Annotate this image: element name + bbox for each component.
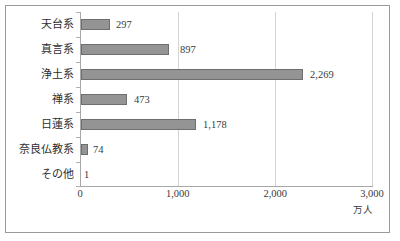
category-label: 真言系 [12, 37, 74, 62]
category-label: 奈良仏教系 [12, 137, 74, 162]
category-label: 天台系 [12, 12, 74, 37]
gridline-2000 [275, 12, 276, 187]
bar-nichiren[interactable] [81, 119, 196, 130]
y-axis-tick [76, 37, 80, 38]
category-label: 浄土系 [12, 62, 74, 87]
category-label: 日蓮系 [12, 112, 74, 137]
gridline-1000 [178, 12, 179, 187]
gridline-3000 [372, 12, 373, 187]
x-axis-line [80, 186, 373, 187]
chart-frame: 天台系 真言系 浄土系 禅系 日蓮系 奈良仏教系 その他 297 897 [5, 5, 390, 233]
plot-area: 297 897 2,269 473 1,178 74 1 [80, 12, 373, 187]
x-tick-label: 1,000 [166, 188, 190, 199]
bar-value-label: 1 [84, 166, 89, 183]
category-label: その他 [12, 162, 74, 187]
x-tick-label: 3,000 [360, 188, 384, 199]
bar-jodo[interactable] [81, 69, 303, 80]
bar-value-label: 74 [93, 141, 104, 158]
category-label: 禅系 [12, 87, 74, 112]
bar-shingon[interactable] [81, 44, 169, 55]
bar-value-label: 897 [180, 41, 196, 58]
x-axis-unit-label: 万人 [6, 202, 373, 216]
bar-value-label: 473 [134, 91, 150, 108]
x-tick-label: 0 [77, 188, 82, 199]
category-axis-labels: 天台系 真言系 浄土系 禅系 日蓮系 奈良仏教系 その他 [12, 12, 78, 187]
y-axis-tick [76, 112, 80, 113]
y-axis-tick [76, 162, 80, 163]
bar-value-label: 2,269 [310, 66, 334, 83]
bar-value-label: 1,178 [203, 116, 227, 133]
y-axis-tick [76, 87, 80, 88]
y-axis-tick [76, 137, 80, 138]
bar-tendai[interactable] [81, 19, 110, 30]
y-axis-tick [76, 12, 80, 13]
y-axis-tick [76, 62, 80, 63]
bar-zen[interactable] [81, 94, 127, 105]
x-tick-label: 2,000 [263, 188, 287, 199]
bar-value-label: 297 [116, 16, 132, 33]
bar-nara-bukkyo[interactable] [81, 144, 88, 155]
y-axis-tick [76, 186, 80, 187]
